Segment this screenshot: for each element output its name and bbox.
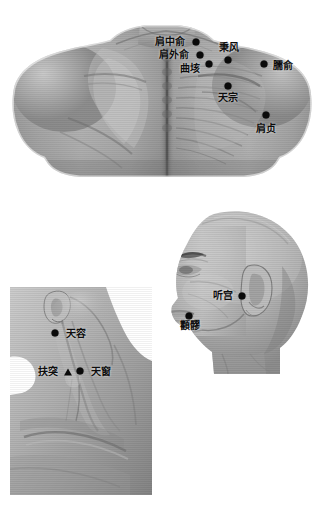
acupoint-label-顴髎: 顴髎	[180, 320, 200, 331]
acupoint-marker-秉风[interactable]	[225, 57, 232, 64]
figure-lateral-neck	[10, 287, 152, 495]
acupoint-marker-天容[interactable]	[52, 330, 59, 337]
acupoint-marker-曲垓[interactable]	[206, 61, 213, 68]
acupoint-label-肩贞: 肩贞	[256, 123, 276, 134]
acupoint-label-听宫: 听宫	[213, 290, 233, 301]
acupoint-marker-顴髎[interactable]	[186, 313, 193, 320]
acupoint-label-曲垓: 曲垓	[180, 63, 200, 74]
acupoint-label-秉风: 秉风	[219, 42, 239, 53]
acupoint-marker-肩外俞[interactable]	[197, 52, 204, 59]
acupoint-marker-臑俞[interactable]	[261, 61, 268, 68]
lateral-neck-photo	[10, 287, 152, 495]
acupoint-label-肩外俞: 肩外俞	[159, 49, 189, 60]
acupoint-label-天宗: 天宗	[218, 92, 238, 103]
head-profile-photo	[152, 206, 320, 374]
acupoint-label-天容: 天容	[66, 328, 86, 339]
acupoint-label-天窗: 天窗	[91, 366, 111, 377]
acupoint-marker-天宗[interactable]	[225, 83, 232, 90]
acupoint-marker-天窗[interactable]	[77, 368, 84, 375]
acupoint-marker-肩中俞[interactable]	[193, 39, 200, 46]
acupoint-label-臑俞: 臑俞	[273, 60, 293, 71]
acupoint-marker-肩贞[interactable]	[263, 112, 270, 119]
figure-head-profile	[152, 206, 320, 374]
acupoint-label-肩中俞: 肩中俞	[155, 36, 185, 47]
acupoint-label-扶突: 扶突	[38, 366, 58, 377]
atlas-page: 肩中俞肩外俞曲垓秉风臑俞天宗肩贞天容扶突天窗听宫顴髎	[0, 0, 324, 505]
acupoint-marker-听宫[interactable]	[239, 293, 246, 300]
acupoint-marker-扶突[interactable]	[64, 369, 72, 376]
